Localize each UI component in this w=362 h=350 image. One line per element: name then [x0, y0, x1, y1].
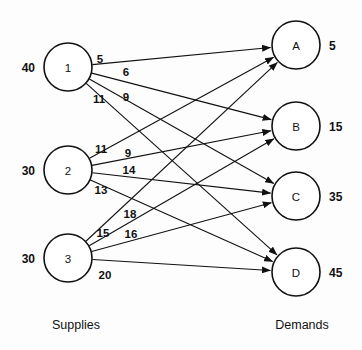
edge-2-to-A [89, 57, 273, 158]
captions-layer: SuppliesDemands [52, 318, 329, 332]
supply-node-3[interactable]: 3 [44, 234, 92, 282]
edge-cost-1-C: 9 [123, 91, 129, 103]
demand-amount-B: 15 [329, 120, 343, 134]
nodes-layer: 140230330A5B15C35D45 [22, 21, 343, 296]
supply-node-label-2: 2 [65, 165, 71, 177]
edge-cost-3-A: 18 [124, 208, 137, 220]
demand-node-label-B: B [292, 121, 300, 133]
edge-2-to-C [92, 173, 270, 193]
edge-2-to-B [92, 131, 271, 166]
edge-cost-2-C: 14 [123, 164, 136, 176]
supply-amount-3: 30 [22, 252, 36, 266]
transportation-network-diagram: 140230330A5B15C35D45 5691111914131815162… [0, 0, 362, 350]
supply-amount-1: 40 [22, 61, 36, 75]
edge-1-to-C [89, 79, 273, 183]
edges-layer [86, 47, 277, 270]
edge-1-to-A [92, 47, 270, 64]
demand-node-B[interactable]: B [272, 102, 320, 150]
supply-node-label-1: 1 [65, 62, 71, 74]
edge-cost-labels-layer: 56911119141318151620 [93, 53, 137, 281]
supply-amount-2: 30 [22, 164, 36, 178]
supply-node-1[interactable]: 1 [44, 43, 92, 91]
network-graph-canvas: 140230330A5B15C35D45 5691111914131815162… [0, 0, 362, 350]
demand-node-label-A: A [292, 40, 300, 52]
demand-node-A[interactable]: A [272, 21, 320, 69]
edge-cost-1-A: 5 [97, 53, 104, 65]
edge-cost-3-B: 15 [97, 227, 110, 239]
demand-node-label-D: D [292, 267, 300, 279]
edge-cost-3-D: 20 [99, 269, 112, 281]
edge-cost-2-D: 13 [95, 184, 108, 196]
demand-node-D[interactable]: D [272, 248, 320, 296]
demand-amount-D: 45 [329, 266, 343, 280]
demand-amount-C: 35 [329, 190, 343, 204]
edge-cost-2-B: 9 [125, 147, 131, 159]
supplies-caption: Supplies [52, 318, 100, 332]
edge-cost-3-C: 16 [125, 228, 138, 240]
demand-amount-A: 5 [329, 39, 336, 53]
edge-cost-2-A: 11 [95, 143, 108, 155]
supply-node-2[interactable]: 2 [44, 146, 92, 194]
supply-node-label-3: 3 [65, 253, 71, 265]
edge-3-to-A [86, 62, 277, 241]
edge-cost-1-D: 11 [93, 93, 106, 105]
demands-caption: Demands [275, 318, 329, 332]
demand-node-label-C: C [292, 191, 300, 203]
edge-cost-1-B: 6 [123, 66, 129, 78]
edge-3-to-D [92, 260, 270, 271]
demand-node-C[interactable]: C [272, 172, 320, 220]
